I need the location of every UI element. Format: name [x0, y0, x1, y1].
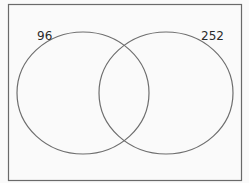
right-set-label: 252 [201, 29, 224, 43]
left-set-label: 96 [37, 29, 52, 43]
venn-diagram-canvas: 96 252 [0, 0, 249, 183]
venn-diagram: 96 252 [0, 0, 249, 183]
